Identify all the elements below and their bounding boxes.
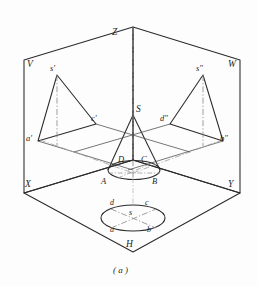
point-label-s-top-view: s <box>129 209 132 217</box>
axis-label-w: W <box>228 60 236 70</box>
point-label-c-prime: c' <box>91 114 97 123</box>
axis-label-x: X <box>25 180 31 190</box>
point-label-d-double-prime: d" <box>160 114 168 123</box>
front-view-outline <box>38 75 96 141</box>
projection-reference-lines <box>38 124 223 170</box>
proj-line-c <box>96 124 190 152</box>
front-view-triangle <box>38 75 96 141</box>
point-label-s-double-prime: s" <box>196 64 203 73</box>
point-label-b-double-prime: b" <box>220 134 228 143</box>
axis-label-v: V <box>27 60 33 70</box>
point-label-d-top-view: d <box>110 199 114 207</box>
point-label-b-top-view: b <box>147 226 151 234</box>
point-label-b: B <box>152 177 157 186</box>
axis-label-z: Z <box>112 28 117 38</box>
point-label-s-apex: S <box>136 105 141 115</box>
axis-label-y: Y <box>228 180 233 190</box>
cone-base-diameter-cd <box>118 164 150 178</box>
point-label-c-top-view: c <box>145 199 149 207</box>
w-plane-outline <box>133 27 240 193</box>
figure-caption: ( a ) <box>113 265 128 275</box>
proj-line-d <box>74 124 170 152</box>
side-view-triangle <box>170 75 223 141</box>
point-label-s-prime: s' <box>50 64 55 73</box>
projection-figure: Z V W X Y H s' a' c' s" d" b" S D C A B … <box>0 0 257 286</box>
space-cone <box>108 115 160 180</box>
horizontal-correspondence-lines <box>40 140 222 173</box>
point-label-a-prime: a' <box>26 134 32 143</box>
point-label-a: A <box>101 177 106 186</box>
point-label-d: D <box>118 155 124 164</box>
axis-label-h: H <box>126 240 133 250</box>
point-label-a-top-view: a <box>110 226 114 234</box>
v-plane-outline <box>24 27 133 193</box>
side-view-outline <box>170 75 223 141</box>
point-label-c: C <box>141 155 147 164</box>
